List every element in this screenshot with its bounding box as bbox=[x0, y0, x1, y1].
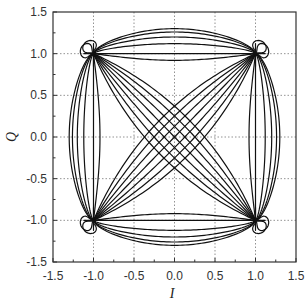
y-tick-label: 0.0 bbox=[30, 130, 47, 144]
y-tick-label: -1.0 bbox=[26, 213, 47, 227]
y-tick-label: -1.5 bbox=[26, 255, 47, 269]
trajectory-curve bbox=[83, 220, 97, 233]
y-tick-labels: -1.5-1.0-0.50.00.51.01.5 bbox=[26, 5, 47, 269]
y-axis-title: Q bbox=[4, 132, 19, 142]
x-tick-label: -1.5 bbox=[43, 269, 64, 283]
trajectory-curve bbox=[83, 40, 97, 53]
trajectory-curve bbox=[94, 44, 256, 54]
x-axis-title: I bbox=[169, 286, 176, 301]
y-tick-label: -0.5 bbox=[26, 172, 47, 186]
y-tick-label: 0.5 bbox=[30, 88, 47, 102]
y-tick-label: 1.5 bbox=[30, 5, 47, 19]
x-tick-label: 1.0 bbox=[247, 269, 264, 283]
x-tick-label: 0.0 bbox=[166, 269, 183, 283]
x-tick-label: -1.0 bbox=[83, 269, 104, 283]
y-tick-label: 1.0 bbox=[30, 47, 47, 61]
x-tick-label: 0.5 bbox=[207, 269, 224, 283]
iq-constellation-chart: -1.5-1.0-0.50.00.51.01.5 -1.5-1.0-0.50.0… bbox=[0, 0, 308, 308]
x-tick-label: -0.5 bbox=[124, 269, 145, 283]
x-tick-label: 1.5 bbox=[288, 269, 305, 283]
x-tick-labels: -1.5-1.0-0.50.00.51.01.5 bbox=[43, 269, 305, 283]
trajectory-curve bbox=[94, 220, 256, 230]
trajectory-curve bbox=[253, 40, 267, 53]
trajectory-curve bbox=[253, 220, 267, 233]
